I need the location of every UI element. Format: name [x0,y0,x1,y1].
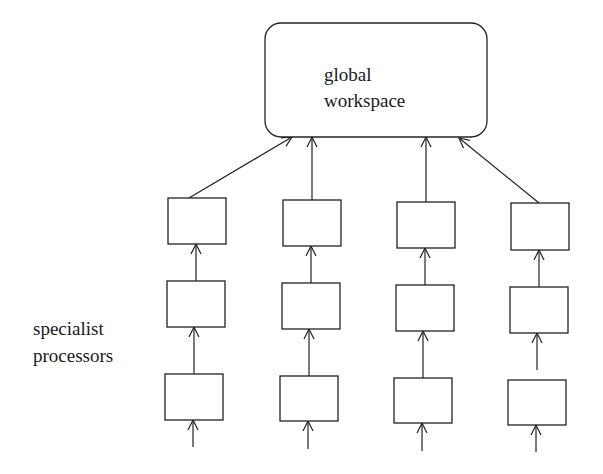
processor-column-2 [280,200,341,421]
global-workspace-node: globalworkspace [265,23,487,137]
processor-box-top [283,200,341,246]
processor-box-top [168,198,226,244]
arrow-icon [459,138,539,203]
specialist-processor-columns [165,198,569,425]
processor-box-middle [282,283,340,329]
processor-column-3 [394,202,455,423]
processor-column-1 [165,198,226,420]
processor-box-middle [167,281,225,327]
processor-box-middle [396,285,454,331]
workspace-label-line1: global [324,64,372,85]
processor-box-bottom [165,374,223,420]
side-label-line1: specialist [33,318,104,339]
processor-box-top [511,203,569,250]
workspace-label-line2: workspace [324,90,405,111]
global-workspace-box [265,23,487,137]
side-label-line2: processors [33,345,113,366]
edges-layer [189,137,539,452]
processor-column-4 [508,203,569,425]
processor-box-bottom [394,378,452,423]
arrow-icon [189,137,292,198]
global-workspace-diagram: globalworkspace specialist processors [0,0,603,474]
processor-box-top [397,202,455,248]
processor-box-bottom [280,376,338,421]
processor-box-middle [510,287,568,333]
processor-box-bottom [508,380,566,425]
